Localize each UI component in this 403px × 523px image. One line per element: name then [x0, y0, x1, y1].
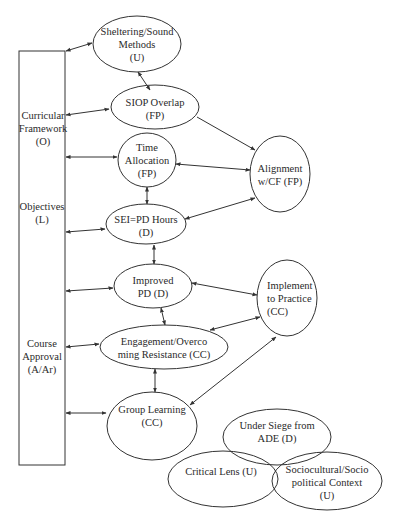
node-critical — [168, 451, 278, 507]
label-curricular-framework: Curricular Framework (O) — [19, 109, 67, 148]
label-siop: SIOP Overlap (FP) — [126, 96, 185, 122]
label-engagement: Engagement/Overco ming Resistance (CC) — [118, 335, 211, 361]
edge-box-improved — [66, 288, 113, 291]
edge-siop-alignment — [197, 117, 255, 150]
edge-box-sei — [66, 229, 105, 232]
label-alignment: Alignment w/CF (FP) — [258, 162, 303, 188]
label-implement: Implement to Practice (CC) — [267, 279, 313, 318]
edge-time-alignment — [176, 164, 250, 170]
edge-improved-implement — [192, 283, 257, 295]
label-improved: Improved PD (D) — [133, 274, 174, 300]
edge-improved-engagement — [161, 308, 165, 325]
label-group: Group Learning (CC) — [118, 403, 185, 429]
label-siege: Under Siege from ADE (D) — [239, 419, 314, 445]
label-sei: SEI=PD Hours (D) — [114, 213, 177, 239]
edge-alignment-sei — [185, 198, 255, 219]
label-objectives: Objectives (L) — [20, 200, 65, 226]
edge-box-siop — [66, 109, 109, 115]
edge-implement-engagement — [210, 317, 260, 330]
label-time: Time Allocation (FP) — [125, 141, 169, 180]
edge-sheltering-siop — [138, 72, 150, 90]
diagram-canvas — [0, 0, 403, 523]
label-sheltering: Sheltering/Sound Methods (U) — [101, 25, 174, 64]
label-course-approval: Course Approval (A/Ar) — [22, 337, 62, 376]
edge-box-engagement — [66, 344, 99, 347]
label-critical: Critical Lens (U) — [185, 465, 257, 478]
label-sociocultural: Sociocultural/Socio political Context (U… — [286, 463, 369, 502]
edge-box-sheltering — [66, 43, 92, 51]
